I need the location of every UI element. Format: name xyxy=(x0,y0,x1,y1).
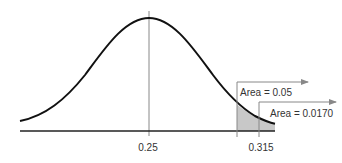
test-stat-tick-label: 0.315 xyxy=(248,142,273,153)
area-pvalue-label: Area = 0.0170 xyxy=(270,108,334,119)
normal-distribution-diagram: Area = 0.05 Area = 0.0170 0.25 0.315 xyxy=(0,0,342,163)
area-alpha-label: Area = 0.05 xyxy=(240,87,292,98)
mean-tick-label: 0.25 xyxy=(138,142,158,153)
